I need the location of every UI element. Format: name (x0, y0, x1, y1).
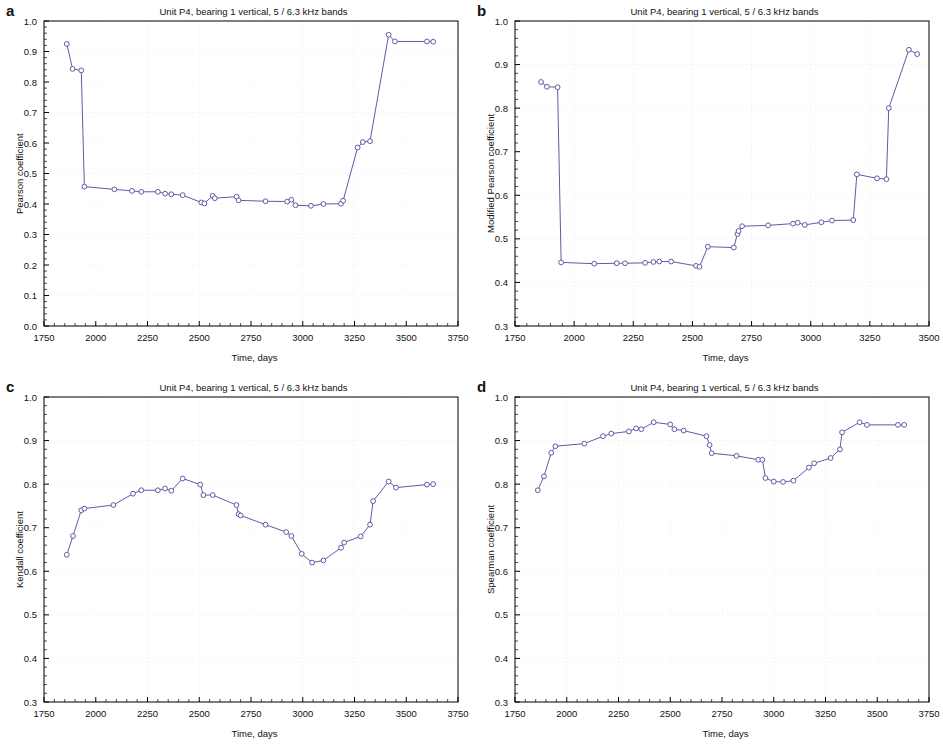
data-point-marker (634, 426, 639, 431)
x-axis-tick-label: 1750 (504, 708, 525, 719)
data-point-marker (760, 457, 765, 462)
data-point-marker (371, 499, 376, 504)
data-point-marker (791, 221, 796, 226)
data-point-marker (139, 189, 144, 194)
x-axis-tick-label: 1750 (504, 332, 525, 343)
y-axis-tick-label: 0.3 (495, 321, 508, 332)
y-axis-tick-label: 0.8 (24, 77, 37, 88)
data-point-marker (657, 259, 662, 264)
data-point-marker (807, 465, 812, 470)
panel-d: d Unit P4, bearing 1 vertical, 5 / 6.3 k… (471, 376, 942, 751)
data-point-marker (131, 491, 136, 496)
data-point-marker (651, 420, 656, 425)
data-point-marker (681, 428, 686, 433)
data-point-marker (169, 192, 174, 197)
y-axis-tick-label: 0.7 (24, 522, 37, 533)
data-point-marker (740, 224, 745, 229)
x-axis-tick-label: 2750 (240, 332, 261, 343)
y-axis-label-d: Spearman coefficient (485, 505, 496, 594)
data-point-marker (392, 39, 397, 44)
x-axis-label-a: Time, days (44, 352, 465, 363)
y-axis-tick-label: 1.0 (495, 392, 508, 403)
x-axis-tick-label: 2000 (85, 332, 106, 343)
data-point-marker (431, 482, 436, 487)
plot-area-b: 0.30.40.50.60.70.80.91.01750200022502500… (471, 0, 942, 375)
data-point-marker (781, 480, 786, 485)
y-axis-tick-label: 0.6 (495, 190, 508, 201)
y-axis-tick-label: 0.3 (24, 697, 37, 708)
data-point-marker (639, 427, 644, 432)
y-axis-tick-label: 0.8 (495, 479, 508, 490)
data-point-marker (289, 534, 294, 539)
data-point-marker (902, 422, 907, 427)
data-point-marker (163, 486, 168, 491)
plot-area-d: 0.30.40.50.60.70.80.91.01750200022502500… (471, 376, 942, 751)
data-point-marker (886, 106, 891, 111)
y-axis-tick-label: 0.9 (24, 435, 37, 446)
data-point-marker (601, 434, 606, 439)
data-point-marker (875, 176, 880, 181)
x-axis-tick-label: 3250 (344, 708, 365, 719)
data-point-marker (238, 513, 243, 518)
data-point-marker (672, 427, 677, 432)
x-axis-tick-label: 3000 (292, 708, 313, 719)
data-point-marker (828, 456, 833, 461)
y-axis-tick-label: 0.8 (495, 103, 508, 114)
y-axis-label-c: Kendall coefficient (14, 511, 25, 588)
data-point-marker (130, 188, 135, 193)
data-point-marker (614, 261, 619, 266)
data-point-marker (169, 488, 174, 493)
plot-area-c: 0.30.40.50.60.70.80.91.01750200022502500… (0, 376, 471, 751)
data-point-marker (180, 476, 185, 481)
y-axis-tick-label: 0.9 (495, 435, 508, 446)
y-axis-tick-label: 0.7 (24, 107, 37, 118)
data-point-marker (155, 189, 160, 194)
data-point-marker (857, 420, 862, 425)
data-point-marker (697, 264, 702, 269)
x-axis-tick-label: 3750 (918, 708, 939, 719)
data-point-marker (236, 198, 241, 203)
panel-c: c Unit P4, bearing 1 vertical, 5 / 6.3 k… (0, 376, 471, 751)
data-point-marker (339, 545, 344, 550)
y-axis-tick-label: 0.7 (495, 146, 508, 157)
y-axis-tick-label: 0.5 (24, 609, 37, 620)
data-point-marker (198, 482, 203, 487)
y-axis-tick-label: 1.0 (24, 392, 37, 403)
data-point-marker (64, 552, 69, 557)
data-point-marker (201, 493, 206, 498)
y-axis-tick-label: 0.4 (24, 199, 37, 210)
x-axis-label-c: Time, days (44, 728, 465, 739)
y-axis-tick-label: 0.5 (24, 168, 37, 179)
data-point-marker (263, 199, 268, 204)
x-axis-tick-label: 2750 (741, 332, 762, 343)
data-point-marker (763, 476, 768, 481)
data-point-marker (545, 84, 550, 89)
y-axis-tick-label: 0.6 (495, 566, 508, 577)
data-point-marker (299, 551, 304, 556)
data-point-marker (731, 245, 736, 250)
data-point-marker (838, 447, 843, 452)
data-point-marker (358, 534, 363, 539)
data-point-marker (559, 260, 564, 265)
y-axis-tick-label: 0.9 (495, 59, 508, 70)
y-axis-label-b: Modified Pearson coefficient (485, 114, 496, 233)
data-point-marker (64, 41, 69, 46)
series-line (538, 422, 904, 490)
data-point-marker (139, 488, 144, 493)
data-point-marker (394, 485, 399, 490)
x-axis-tick-label: 3750 (447, 332, 468, 343)
data-point-marker (425, 39, 430, 44)
axes-frame (515, 21, 929, 326)
data-point-marker (736, 229, 741, 234)
data-point-marker (830, 218, 835, 223)
data-point-marker (709, 451, 714, 456)
data-point-marker (310, 560, 315, 565)
data-point-marker (112, 187, 117, 192)
x-axis-tick-label: 3250 (859, 332, 880, 343)
data-point-marker (70, 66, 75, 71)
data-point-marker (368, 139, 373, 144)
data-point-marker (643, 260, 648, 265)
y-axis-tick-label: 0.5 (495, 609, 508, 620)
data-point-marker (210, 493, 215, 498)
x-axis-tick-label: 2750 (711, 708, 732, 719)
